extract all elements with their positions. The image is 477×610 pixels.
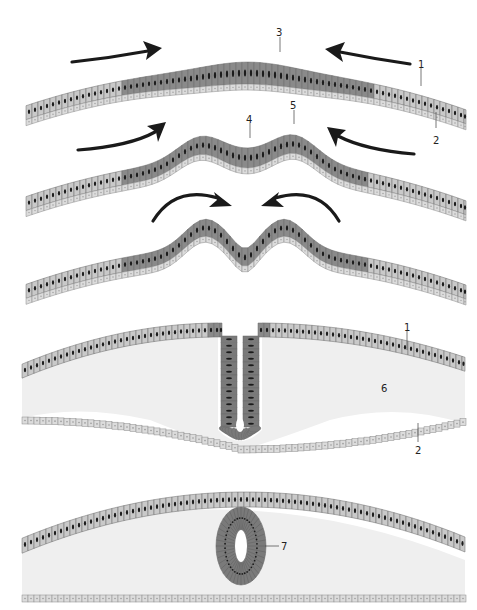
nucleus	[251, 524, 253, 526]
basal-nucleus	[208, 157, 209, 158]
basal-nucleus	[268, 87, 269, 88]
basal-nucleus	[88, 195, 89, 196]
basal-nucleus	[420, 598, 422, 600]
stage-5-basal-layer	[22, 595, 466, 602]
nucleus	[154, 167, 156, 172]
basal-nucleus	[340, 96, 341, 97]
basal-nucleus	[256, 260, 257, 261]
nucleus	[364, 262, 366, 267]
basal-nucleus	[276, 448, 278, 450]
nucleus	[248, 416, 254, 418]
basal-nucleus	[464, 126, 465, 127]
basal-nucleus	[160, 93, 161, 94]
basal-nucleus	[24, 598, 26, 600]
basal-nucleus	[432, 428, 434, 430]
nucleus	[52, 102, 54, 106]
basal-nucleus	[112, 189, 113, 190]
nucleus	[358, 261, 360, 266]
basal-nucleus	[408, 598, 410, 600]
basal-nucleus	[250, 86, 251, 87]
nucleus	[370, 88, 372, 93]
basal-nucleus	[418, 287, 419, 288]
nucleus	[178, 77, 180, 83]
nucleus	[208, 73, 210, 79]
basal-nucleus	[388, 279, 389, 280]
basal-nucleus	[42, 420, 44, 422]
nucleus	[370, 264, 372, 269]
basal-nucleus	[282, 598, 284, 600]
basal-nucleus	[210, 598, 212, 600]
basal-nucleus	[112, 276, 113, 277]
nucleus	[298, 232, 300, 237]
basal-nucleus	[204, 440, 206, 442]
nucleus	[40, 196, 42, 200]
basal-nucleus	[76, 198, 77, 199]
nucleus	[272, 328, 274, 332]
basal-nucleus	[100, 102, 101, 103]
nucleus	[58, 100, 60, 104]
basal-nucleus	[208, 239, 209, 240]
nucleus	[252, 497, 254, 502]
basal-nucleus	[186, 598, 188, 600]
nucleus	[250, 252, 252, 258]
basal-nucleus	[154, 268, 155, 269]
nucleus	[268, 232, 270, 238]
nucleus	[255, 556, 257, 558]
basal-nucleus	[192, 437, 194, 439]
basal-nucleus	[244, 170, 245, 171]
nucleus	[234, 497, 236, 502]
nucleus	[416, 348, 418, 352]
nucleus	[246, 571, 248, 573]
nucleus	[136, 83, 138, 88]
nucleus	[400, 270, 402, 274]
nucleus	[400, 185, 402, 190]
arrow-right-inward	[340, 52, 410, 64]
nucleus	[36, 537, 38, 542]
nucleus	[450, 537, 452, 542]
nucleus	[322, 159, 324, 164]
basal-nucleus	[196, 89, 197, 90]
nucleus	[225, 534, 227, 536]
nucleus	[244, 255, 246, 261]
nucleus	[452, 358, 454, 362]
basal-nucleus	[72, 421, 74, 423]
nucleus	[150, 505, 152, 510]
basal-nucleus	[70, 199, 71, 200]
nucleus	[24, 368, 26, 372]
nucleus	[332, 332, 334, 336]
basal-nucleus	[436, 207, 437, 208]
nucleus	[300, 500, 302, 505]
nucleus	[72, 350, 74, 354]
nucleus	[234, 519, 236, 521]
basal-nucleus	[318, 598, 320, 600]
basal-nucleus	[34, 210, 35, 211]
nucleus	[210, 498, 212, 503]
basal-nucleus	[352, 272, 353, 273]
nucleus	[142, 82, 144, 87]
nucleus	[225, 552, 227, 554]
nucleus	[460, 113, 462, 117]
nucleus	[142, 171, 144, 176]
basal-nucleus	[316, 93, 317, 94]
stage-4-neural-fold-walls	[219, 336, 261, 440]
nucleus	[52, 280, 54, 284]
nucleus	[410, 346, 412, 350]
nucleus	[366, 511, 368, 516]
nucleus	[220, 147, 222, 153]
nucleus	[228, 497, 230, 502]
basal-nucleus	[454, 213, 455, 214]
basal-nucleus	[234, 447, 236, 449]
basal-nucleus	[310, 92, 311, 93]
nucleus	[160, 80, 162, 85]
nucleus	[204, 328, 206, 332]
nucleus	[418, 190, 420, 194]
basal-nucleus	[456, 423, 458, 425]
nucleus	[256, 547, 258, 549]
nucleus	[130, 174, 132, 179]
basal-nucleus	[220, 246, 221, 247]
basal-nucleus	[396, 598, 398, 600]
basal-nucleus	[178, 91, 179, 92]
basal-nucleus	[102, 424, 104, 426]
basal-nucleus	[238, 169, 239, 170]
nucleus	[160, 165, 162, 170]
